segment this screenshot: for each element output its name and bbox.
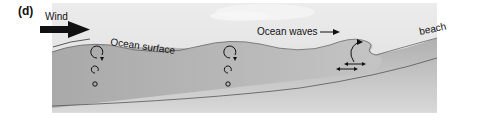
- wave-diagram: Wind Ocean surface Ocean waves beach: [0, 0, 489, 128]
- wind-label: Wind: [45, 11, 68, 22]
- ocean-waves-label: Ocean waves: [257, 26, 318, 37]
